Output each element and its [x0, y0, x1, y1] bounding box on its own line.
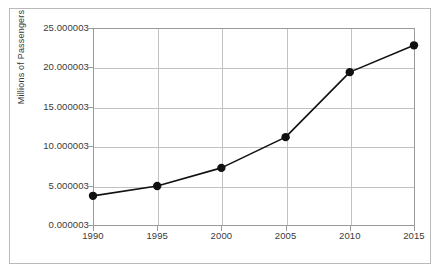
x-axis-tick-mark [157, 226, 158, 231]
y-axis-tick-label: 15.000003 [3, 102, 89, 112]
x-axis-tick-labels: 199019952000200520102015 [93, 230, 415, 246]
x-axis-tick-label: 2000 [191, 230, 251, 242]
data-point-marker [410, 41, 418, 49]
x-axis-tick-label: 1995 [127, 230, 187, 242]
x-axis-tick-mark [350, 226, 351, 231]
y-axis-tick-label: 0.000003 [3, 220, 89, 230]
y-axis-tick-mark [88, 107, 93, 108]
data-point-marker [217, 164, 225, 172]
data-series-layer [93, 28, 415, 226]
x-axis-tick-label: 2010 [320, 230, 380, 242]
x-axis-tick-mark [414, 226, 415, 231]
y-axis-tick-mark [88, 146, 93, 147]
x-axis-tick-label: 2015 [384, 230, 441, 242]
y-axis-tick-label: 25.000003 [3, 23, 89, 33]
data-point-marker [281, 133, 289, 141]
x-axis-tick-label: 2005 [256, 230, 316, 242]
data-point-marker [346, 68, 354, 76]
x-axis-tick-mark [286, 226, 287, 231]
y-axis-tick-label: 10.000003 [3, 141, 89, 151]
y-axis-tick-label: 5.000003 [3, 181, 89, 191]
y-axis-tick-mark [88, 67, 93, 68]
x-axis-tick-label: 1990 [63, 230, 123, 242]
x-axis-tick-mark [93, 226, 94, 231]
y-axis-tick-labels: 0.0000035.00000310.00000315.00000320.000… [0, 28, 89, 226]
chart-figure: Millions of Passengers 0.0000035.0000031… [0, 0, 441, 273]
data-point-marker [153, 182, 161, 190]
data-line [93, 45, 414, 196]
x-axis-tick-mark [221, 226, 222, 231]
y-axis-tick-mark [88, 28, 93, 29]
data-point-marker [89, 192, 97, 200]
y-axis-tick-label: 20.000003 [3, 62, 89, 72]
y-axis-tick-mark [88, 186, 93, 187]
